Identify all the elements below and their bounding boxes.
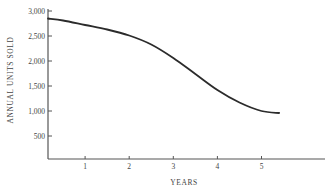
y-tick-label: 1,500 (28, 82, 45, 91)
x-tick-label: 3 (171, 162, 175, 171)
y-axis-label: ANNUAL UNITS SOLD (6, 36, 15, 123)
x-tick-label: 4 (216, 162, 220, 171)
x-ticks: 12345 (83, 156, 263, 171)
x-axis-label: YEARS (170, 178, 198, 187)
line-chart: 5001,0001,5002,0002,5003,000 12345 YEARS… (0, 0, 331, 192)
y-tick-label: 1,000 (28, 107, 45, 116)
y-tick-label: 2,000 (28, 57, 45, 66)
x-tick-label: 2 (127, 162, 131, 171)
y-tick-label: 500 (34, 132, 46, 141)
x-tick-label: 1 (83, 162, 87, 171)
y-axis: 5001,0001,5002,0002,5003,000 (28, 7, 52, 160)
x-axis: 12345 (48, 156, 325, 171)
x-tick-label: 5 (260, 162, 264, 171)
sales-curve (48, 19, 279, 114)
y-tick-label: 3,000 (28, 7, 45, 16)
y-tick-label: 2,500 (28, 32, 45, 41)
